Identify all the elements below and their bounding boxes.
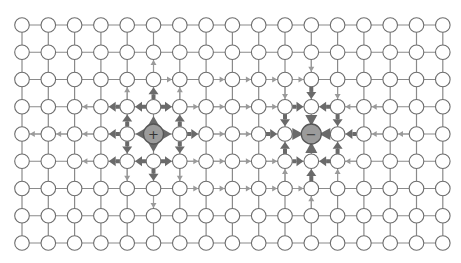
plus-icon: + [148, 127, 159, 142]
lattice-node [409, 208, 424, 223]
lattice-node [225, 45, 240, 60]
lattice-node [330, 127, 345, 142]
lattice-node [330, 45, 345, 60]
arrowhead-icon [246, 104, 251, 110]
thin-arrow [177, 87, 183, 99]
lattice-node [146, 208, 161, 223]
thin-arrow [213, 158, 224, 164]
lattice-node [120, 236, 135, 251]
lattice-node [330, 72, 345, 87]
lattice-node [94, 181, 109, 196]
lattice-node [41, 236, 56, 251]
lattice-node [146, 154, 161, 169]
thin-arrow [240, 158, 251, 164]
thin-arrow [292, 77, 303, 83]
lattice-node [173, 72, 188, 87]
arrowhead-icon [135, 102, 142, 112]
thin-arrow [151, 196, 157, 208]
arrowhead-icon [272, 158, 277, 164]
lattice-node [225, 236, 240, 251]
lattice-node [357, 127, 372, 142]
lattice-node [67, 208, 82, 223]
lattice-node [15, 181, 30, 196]
thin-arrow [282, 169, 288, 181]
arrowhead-icon [319, 102, 326, 112]
lattice-node [94, 236, 109, 251]
lattice-node [409, 72, 424, 87]
thick-arrow [149, 87, 159, 99]
lattice-node [357, 45, 372, 60]
thin-arrow [292, 186, 303, 192]
lattice-node [436, 208, 451, 223]
lattice-node [120, 99, 135, 114]
thin-arrow [213, 131, 224, 137]
lattice-node [146, 181, 161, 196]
thin-arrow [372, 131, 383, 137]
thin-arrow [124, 169, 130, 181]
lattice-node [225, 127, 240, 142]
arrowhead-icon [193, 104, 198, 110]
lattice-node [120, 72, 135, 87]
lattice-node [173, 236, 188, 251]
arrowhead-icon [177, 87, 183, 92]
thin-arrow [240, 131, 251, 137]
thin-arrow [151, 60, 157, 72]
arrowhead-icon [122, 115, 132, 122]
arrowhead-icon [109, 129, 116, 139]
lattice-node [225, 18, 240, 33]
thick-arrow [161, 102, 172, 112]
thick-arrow [319, 102, 330, 112]
lattice-node [278, 127, 293, 142]
lattice-node [41, 45, 56, 60]
thick-arrow [266, 129, 277, 139]
arrowhead-icon [175, 146, 185, 153]
lattice-node [383, 18, 398, 33]
lattice-node [409, 181, 424, 196]
lattice-node [120, 45, 135, 60]
lattice-node [304, 99, 319, 114]
thick-arrow [333, 142, 343, 154]
arrowhead-icon [280, 142, 290, 149]
lattice-node [225, 208, 240, 223]
lattice-node [409, 154, 424, 169]
thin-arrow [187, 158, 198, 164]
lattice-node [304, 208, 319, 223]
lattice-node [67, 154, 82, 169]
lattice-node [383, 208, 398, 223]
arrowhead-icon [109, 102, 116, 112]
arrowhead-icon [333, 119, 343, 126]
lattice-node [304, 72, 319, 87]
lattice-node [278, 236, 293, 251]
thick-arrow [319, 156, 330, 166]
thick-arrow [122, 141, 132, 153]
thick-arrow [175, 141, 185, 153]
arrowhead-icon [246, 186, 251, 192]
thin-arrow [82, 104, 93, 110]
lattice-node [94, 208, 109, 223]
thick-arrow [109, 102, 120, 112]
lattice-node [225, 181, 240, 196]
lattice-node [173, 208, 188, 223]
lattice-node [67, 236, 82, 251]
lattice-node [67, 18, 82, 33]
lattice-node [409, 18, 424, 33]
arrowhead-icon [124, 176, 130, 181]
arrowhead-icon [308, 67, 314, 72]
lattice-node [251, 72, 266, 87]
lattice-node [67, 127, 82, 142]
lattice-node [409, 236, 424, 251]
lattice-node [278, 181, 293, 196]
thin-arrow [266, 158, 277, 164]
lattice-node [330, 181, 345, 196]
thin-arrow [161, 77, 172, 83]
lattice-node [173, 18, 188, 33]
lattice-node [146, 18, 161, 33]
lattice-node [304, 181, 319, 196]
lattice-node [67, 45, 82, 60]
arrowhead-icon [151, 203, 157, 208]
thin-arrow [213, 186, 224, 192]
thick-arrow [345, 129, 356, 139]
lattice-node [199, 72, 214, 87]
thick-arrow [161, 156, 172, 166]
thin-arrow [82, 158, 93, 164]
